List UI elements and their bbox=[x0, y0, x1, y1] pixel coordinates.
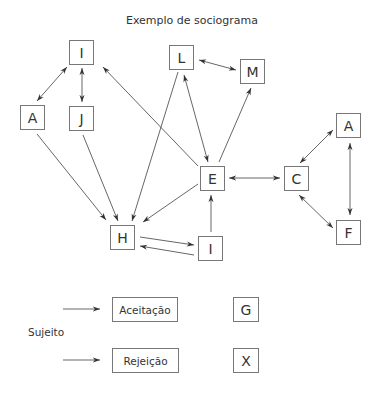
node-a-right: A bbox=[336, 113, 361, 138]
legend-acceptance-symbol: G bbox=[233, 297, 259, 322]
edge-l-e bbox=[184, 75, 208, 162]
edge-c-a-right bbox=[300, 130, 333, 163]
node-h: H bbox=[110, 225, 135, 250]
node-e: E bbox=[200, 166, 225, 191]
edge-c-f bbox=[299, 195, 333, 228]
legend-acceptance-box: Aceitação bbox=[112, 297, 178, 322]
node-c: C bbox=[284, 166, 309, 191]
node-j: J bbox=[69, 106, 94, 131]
edge-i-a-left bbox=[37, 67, 67, 101]
node-l: L bbox=[169, 45, 194, 70]
edge-l-h bbox=[132, 72, 178, 221]
edge-e-m bbox=[219, 88, 251, 162]
node-i-top: I bbox=[69, 40, 94, 65]
node-f: F bbox=[336, 220, 361, 245]
edge-a-h bbox=[37, 134, 106, 220]
edge-i-h bbox=[140, 246, 194, 255]
edge-h-i bbox=[140, 237, 194, 245]
node-m: M bbox=[240, 59, 265, 84]
edge-e-i bbox=[103, 67, 198, 166]
edge-j-h bbox=[83, 135, 118, 221]
legend-rejection-symbol: X bbox=[233, 348, 259, 373]
edge-e-h bbox=[143, 184, 198, 222]
edge-l-m bbox=[199, 60, 236, 70]
legend-subject-label: Sujeito bbox=[28, 326, 64, 338]
node-a-left: A bbox=[20, 105, 45, 130]
legend-rejection-box: Rejeição bbox=[112, 348, 179, 373]
node-i-bottom: I bbox=[198, 236, 223, 261]
